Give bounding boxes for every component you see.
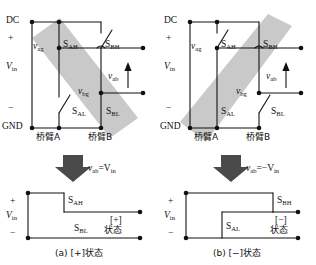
plus-sign-b: +	[166, 34, 171, 44]
vab-arrow-icon	[124, 62, 131, 88]
conduction-highlight-band	[32, 18, 138, 138]
switch-al-label-b-bottom: SAL	[226, 222, 240, 232]
figure-root: DC + Vin − GND vag vbg vab SAH SBH SAL S…	[0, 0, 316, 265]
gnd-label-a: GND	[2, 122, 23, 132]
switch-al-label-b: SAL	[221, 107, 235, 117]
vag-label-a: vag	[33, 42, 43, 52]
vag-label-b: vag	[191, 42, 201, 52]
vab-arrow-icon	[282, 62, 289, 88]
bridge-arm-a-label-b: 桥臂A	[194, 133, 218, 142]
state-text-b: 状态	[270, 226, 288, 235]
vin-label-b-bottom: Vin	[164, 211, 175, 221]
minus-sign-a: −	[8, 104, 13, 114]
minus-sign-b: −	[166, 104, 171, 114]
minus-sign-b-bottom: −	[168, 229, 173, 239]
dc-label-a: DC	[6, 16, 19, 26]
switch-ah-label-a: SAH	[63, 40, 78, 50]
gnd-label-b: GND	[160, 122, 181, 132]
panel-a: DC + Vin − GND vag vbg vab SAH SBH SAL S…	[0, 0, 158, 265]
plus-sign-b-bottom: +	[168, 197, 173, 207]
vab-label-a: vab	[108, 72, 118, 82]
bridge-arm-a-label-a: 桥臂A	[36, 133, 60, 142]
vbg-label-a: vbg	[78, 87, 89, 97]
dc-label-b: DC	[164, 16, 177, 26]
vab-label-b: vab	[266, 72, 276, 82]
switch-bh-label-a: SBH	[105, 40, 119, 50]
switch-bh-label-b: SBH	[263, 40, 277, 50]
transition-arrow-icon	[213, 155, 249, 182]
transition-arrow-icon	[55, 155, 91, 182]
caption-a: (a) [+]状态	[0, 246, 158, 259]
bridge-arm-b-label-a: 桥臂B	[88, 133, 112, 142]
vin-label-b: Vin	[164, 62, 175, 72]
switch-bl-label-b: SBL	[271, 107, 285, 117]
vbg-label-b: vbg	[236, 87, 247, 97]
equation-a: vab=Vin	[88, 163, 116, 173]
caption-b: (b) [−]状态	[158, 246, 316, 259]
switch-bh-label-b-bottom: SBH	[277, 196, 291, 206]
state-text-a: 状态	[104, 226, 122, 235]
plus-sign-a: +	[8, 34, 13, 44]
switch-al-label-a: SAL	[72, 107, 86, 117]
plus-sign-a-bottom: +	[10, 197, 15, 207]
bridge-arm-b-label-b: 桥臂B	[246, 133, 270, 142]
switch-ah-label-a-bottom: SAH	[68, 196, 83, 206]
vin-label-a: Vin	[6, 62, 17, 72]
minus-sign-a-bottom: −	[10, 229, 15, 239]
switch-bl-label-a: SBL	[106, 107, 120, 117]
panel-b: DC + Vin − GND vag vbg vab SAH SBH SAL S…	[158, 0, 316, 265]
switch-ah-label-b: SAH	[221, 40, 236, 50]
switch-bl-label-a-bottom: SBL	[74, 224, 88, 234]
equation-b: vab=−Vin	[246, 163, 279, 173]
vin-label-a-bottom: Vin	[6, 211, 17, 221]
